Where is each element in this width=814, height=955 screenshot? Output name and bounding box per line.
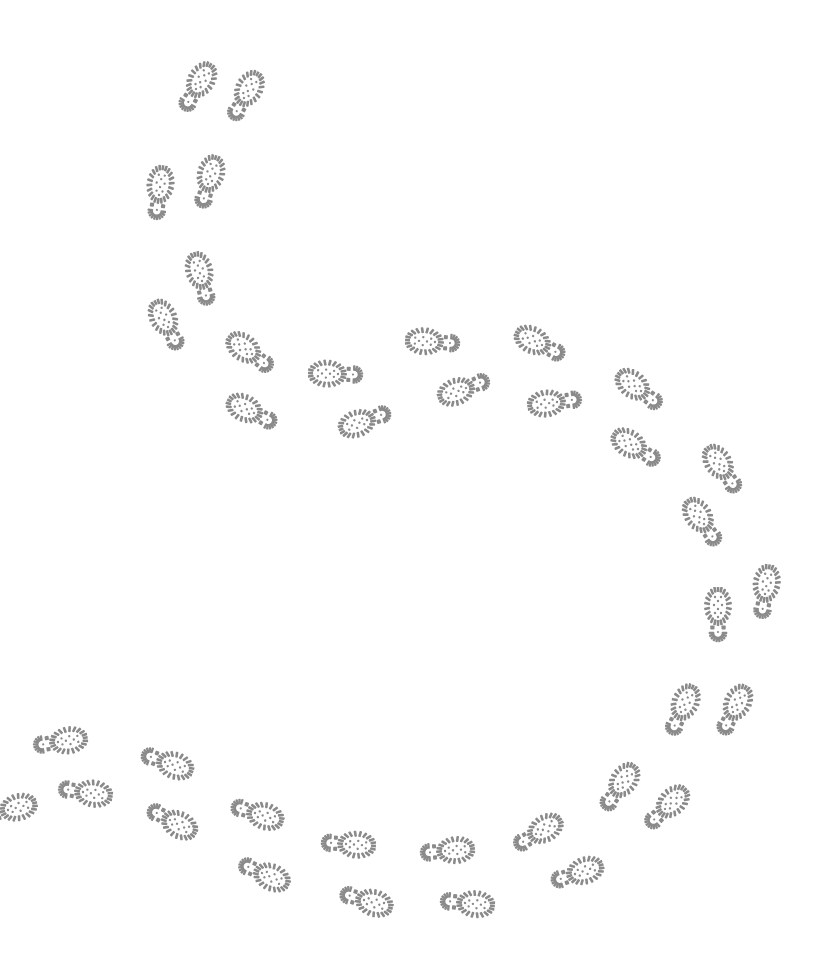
boot-footprint-icon xyxy=(127,724,204,801)
boot-footprint-icon xyxy=(432,870,498,936)
boot-footprint-icon xyxy=(0,773,45,846)
boot-footprint-icon xyxy=(597,408,680,491)
boot-footprint-icon xyxy=(24,708,93,777)
boot-footprint-icon xyxy=(327,863,402,938)
boot-footprint-icon xyxy=(214,373,295,454)
boot-footprint-icon xyxy=(523,368,591,436)
boot-footprint-icon xyxy=(693,672,774,753)
boot-footprint-icon xyxy=(731,560,800,629)
footprint-trail-canvas: Boot footprints trail xyxy=(0,0,814,955)
boot-footprint-icon xyxy=(222,833,301,912)
